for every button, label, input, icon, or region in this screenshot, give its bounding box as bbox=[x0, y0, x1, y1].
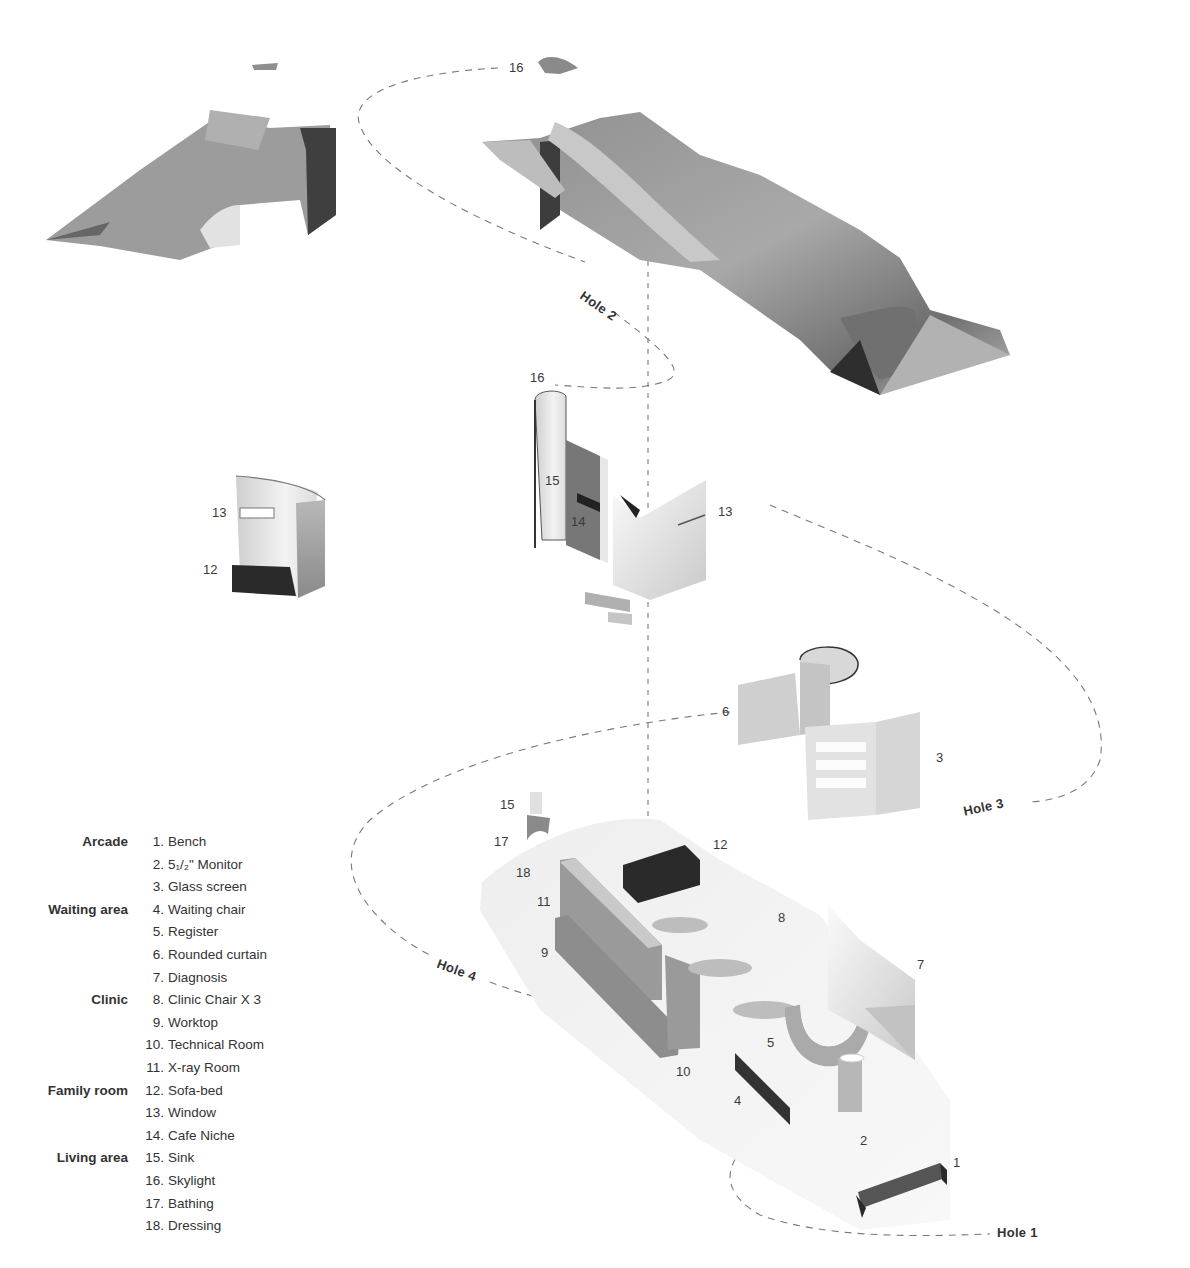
legend-row: 14.Cafe Niche bbox=[0, 1128, 300, 1151]
legend-number: 4. bbox=[134, 902, 164, 917]
hole2-path-lower bbox=[555, 312, 674, 388]
legend-row: Living area15.Sink bbox=[0, 1150, 300, 1173]
legend-number: 8. bbox=[134, 992, 164, 1007]
legend-number: 13. bbox=[134, 1105, 164, 1120]
legend-name: Sink bbox=[168, 1150, 194, 1165]
legend-name: 5₁/₂" Monitor bbox=[168, 857, 243, 872]
legend-number: 10. bbox=[134, 1037, 164, 1052]
callout-13-window-right: 13 bbox=[718, 504, 732, 519]
legend-number: 5. bbox=[134, 924, 164, 939]
legend-name: Technical Room bbox=[168, 1037, 264, 1052]
callout-15-sink: 15 bbox=[545, 473, 559, 488]
callout-12-sofa-left: 12 bbox=[203, 562, 217, 577]
legend-row: 9.Worktop bbox=[0, 1015, 300, 1038]
legend-name: Cafe Niche bbox=[168, 1128, 235, 1143]
callout-16-skylight: 16 bbox=[530, 370, 544, 385]
callout-13-window-left: 13 bbox=[212, 505, 226, 520]
legend-name: Glass screen bbox=[168, 879, 247, 894]
legend-row: Arcade1.Bench bbox=[0, 834, 300, 857]
roof-fragment-left bbox=[46, 63, 336, 260]
callout-8-clinic-chair: 8 bbox=[778, 910, 785, 925]
roof-volume-main bbox=[482, 57, 1010, 395]
legend-number: 11. bbox=[134, 1060, 164, 1075]
legend: Arcade1.Bench 2.5₁/₂" Monitor 3.Glass sc… bbox=[0, 834, 300, 1241]
callout-2-monitor: 2 bbox=[860, 1133, 867, 1148]
legend-name: Rounded curtain bbox=[168, 947, 267, 962]
callout-4-waiting-chair: 4 bbox=[734, 1093, 741, 1108]
living-volume-upper bbox=[535, 391, 706, 625]
legend-row: 3.Glass screen bbox=[0, 879, 300, 902]
callout-3-glass-screen: 3 bbox=[936, 750, 943, 765]
callout-14-cafe-niche: 14 bbox=[571, 514, 585, 529]
legend-row: 6.Rounded curtain bbox=[0, 947, 300, 970]
legend-name: Dressing bbox=[168, 1218, 221, 1233]
callout-16-roof: 16 bbox=[509, 60, 523, 75]
legend-name: Worktop bbox=[168, 1015, 218, 1030]
legend-row: 17.Bathing bbox=[0, 1196, 300, 1219]
legend-name: Skylight bbox=[168, 1173, 215, 1188]
legend-number: 3. bbox=[134, 879, 164, 894]
legend-row: 10.Technical Room bbox=[0, 1037, 300, 1060]
legend-name: Sofa-bed bbox=[168, 1083, 223, 1098]
legend-row: 13.Window bbox=[0, 1105, 300, 1128]
exploded-axonometric-diagram: 16 16 15 14 13 13 12 6 3 15 17 18 12 11 … bbox=[0, 0, 1190, 1268]
legend-number: 1. bbox=[134, 834, 164, 849]
callout-11-xray: 11 bbox=[537, 894, 551, 909]
callout-9-worktop: 9 bbox=[541, 945, 548, 960]
callout-15-sink-lower: 15 bbox=[500, 797, 514, 812]
legend-group: Clinic bbox=[91, 992, 128, 1007]
legend-row: 5.Register bbox=[0, 924, 300, 947]
legend-row: Clinic8.Clinic Chair X 3 bbox=[0, 992, 300, 1015]
legend-name: Clinic Chair X 3 bbox=[168, 992, 261, 1007]
legend-row: Family room12.Sofa-bed bbox=[0, 1083, 300, 1106]
callout-12-sofa-bed: 12 bbox=[713, 837, 727, 852]
legend-row: 7.Diagnosis bbox=[0, 970, 300, 993]
legend-name: Bench bbox=[168, 834, 206, 849]
family-room-volume bbox=[232, 476, 325, 598]
legend-name: Bathing bbox=[168, 1196, 214, 1211]
callout-5-register: 5 bbox=[767, 1035, 774, 1050]
legend-group: Family room bbox=[48, 1083, 128, 1098]
legend-group: Living area bbox=[57, 1150, 128, 1165]
legend-row: 18.Dressing bbox=[0, 1218, 300, 1241]
hole-1-label: Hole 1 bbox=[997, 1225, 1038, 1240]
legend-row: Waiting area4.Waiting chair bbox=[0, 902, 300, 925]
legend-number: 6. bbox=[134, 947, 164, 962]
legend-number: 2. bbox=[134, 857, 164, 872]
callout-10-technical: 10 bbox=[676, 1064, 690, 1079]
callout-1-bench: 1 bbox=[953, 1155, 960, 1170]
legend-name: Diagnosis bbox=[168, 970, 227, 985]
legend-name: X-ray Room bbox=[168, 1060, 240, 1075]
legend-group: Arcade bbox=[82, 834, 128, 849]
curtain-and-glass-screen bbox=[738, 647, 920, 820]
callout-7-diagnosis: 7 bbox=[917, 957, 924, 972]
callout-17-bathing: 17 bbox=[494, 834, 508, 849]
legend-name: Window bbox=[168, 1105, 216, 1120]
legend-name: Waiting chair bbox=[168, 902, 246, 917]
ground-floor bbox=[480, 792, 950, 1230]
legend-number: 9. bbox=[134, 1015, 164, 1030]
legend-group: Waiting area bbox=[48, 902, 128, 917]
legend-name: Register bbox=[168, 924, 218, 939]
legend-row: 16.Skylight bbox=[0, 1173, 300, 1196]
legend-number: 14. bbox=[134, 1128, 164, 1143]
callout-6-curtain: 6 bbox=[722, 704, 729, 719]
legend-number: 17. bbox=[134, 1196, 164, 1211]
legend-number: 16. bbox=[134, 1173, 164, 1188]
legend-number: 12. bbox=[134, 1083, 164, 1098]
legend-row: 2.5₁/₂" Monitor bbox=[0, 857, 300, 880]
callout-18-dressing: 18 bbox=[516, 865, 530, 880]
legend-number: 15. bbox=[134, 1150, 164, 1165]
legend-number: 18. bbox=[134, 1218, 164, 1233]
legend-row: 11.X-ray Room bbox=[0, 1060, 300, 1083]
legend-number: 7. bbox=[134, 970, 164, 985]
